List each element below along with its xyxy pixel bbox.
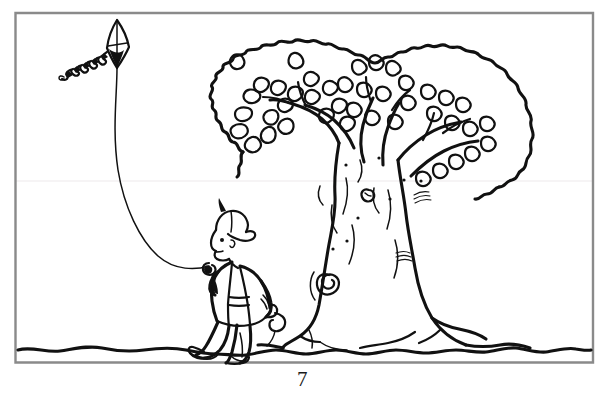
coloring-book-page: 7 [0,0,605,398]
tree-roots [258,318,530,350]
boy-string-end [267,331,275,346]
boy-sleeve-cuff-2 [261,299,267,309]
tree-branch-middle [361,98,373,162]
boy-pants-crease [240,333,242,357]
tree-group [210,40,533,350]
tree-branch-fork-e [366,77,371,102]
tree-leaf-clusters [230,53,496,186]
boy-face [211,230,229,261]
ground-line-group [18,347,591,355]
tree-trunk-left-side [283,143,339,348]
boy-cap-seam [231,211,232,232]
boy-shirt-band [229,297,249,298]
tree-canopy-right-lobe [475,187,499,199]
boy-group [189,198,286,364]
boy-ear [230,240,235,248]
tree-branch-middle-right [383,103,399,165]
kite-string [115,68,209,269]
ground-line [18,347,591,355]
tree-canopy-outline [210,40,533,187]
boy-shirt-band-lower [229,305,249,306]
boy-vest-opening-left [228,263,232,326]
boy-cap-tuft [219,198,226,212]
tree-bark-hatching [396,192,431,261]
tree-canopy-left-lobe [237,152,243,177]
kite-group [59,20,129,80]
tree-knot-holes [310,189,374,300]
illustration-frame [0,0,605,370]
boy-vest-hem [217,313,269,326]
kite-tail-tip [59,76,64,80]
illustration-canvas [0,0,605,370]
page-number: 7 [0,366,605,392]
boy-eye [220,238,224,242]
